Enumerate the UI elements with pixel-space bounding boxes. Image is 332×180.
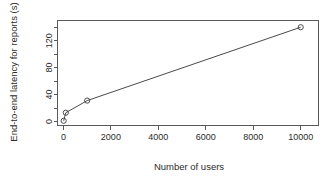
y-axis-title: End-to-end latency for reports (s) — [8, 2, 19, 141]
plot-frame — [58, 21, 319, 126]
y-tick-label: 120 — [44, 33, 54, 48]
series-polyline — [64, 27, 301, 121]
x-tick-label: 10000 — [288, 132, 313, 142]
x-axis-tick-labels: 0200040006000800010000 — [61, 132, 313, 142]
data-series-line — [64, 27, 301, 121]
x-axis-title: Number of users — [154, 161, 224, 172]
y-tick-label: 0 — [44, 119, 54, 124]
chart-figure: 0200040006000800010000 04080120 Number o… — [0, 0, 332, 180]
x-tick-label: 2000 — [101, 132, 121, 142]
x-axis-ticks — [63, 126, 300, 130]
x-tick-label: 8000 — [243, 132, 263, 142]
data-series-points — [61, 25, 303, 124]
x-tick-label: 4000 — [148, 132, 168, 142]
line-chart: 0200040006000800010000 04080120 Number o… — [0, 0, 332, 180]
y-tick-label: 80 — [44, 63, 54, 73]
y-axis-ticks — [54, 27, 58, 121]
x-tick-label: 0 — [61, 132, 66, 142]
y-tick-label: 40 — [44, 90, 54, 100]
x-tick-label: 6000 — [196, 132, 216, 142]
y-axis-tick-labels: 04080120 — [44, 33, 54, 124]
